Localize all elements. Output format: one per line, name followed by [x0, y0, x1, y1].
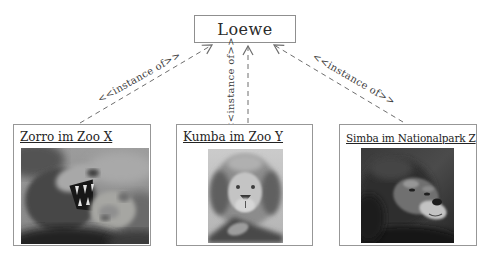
instance-title: Kumba im Zoo Y	[183, 130, 283, 144]
instance-box-simba: Simba im Nationalpark Z	[339, 124, 477, 246]
instance-of-label-middle: <<instance of>>	[225, 37, 236, 131]
instance-title: Simba im Nationalpark Z	[346, 132, 476, 144]
uml-instance-diagram: Loewe <<instance of>> <<instance of>> <<…	[0, 0, 488, 258]
class-box: Loewe	[194, 15, 296, 43]
lion-frontal-portrait-photo	[208, 149, 283, 243]
dark-lion-head-photo	[361, 148, 454, 243]
instance-box-zorro: Zorro im Zoo X	[13, 124, 151, 246]
instance-box-kumba: Kumba im Zoo Y	[176, 124, 313, 246]
instance-of-arrow-right	[274, 45, 403, 122]
instance-title: Zorro im Zoo X	[20, 130, 112, 144]
class-name: Loewe	[217, 20, 272, 39]
instance-of-arrow-left	[80, 45, 212, 123]
two-lions-one-roaring-photo	[21, 148, 149, 244]
